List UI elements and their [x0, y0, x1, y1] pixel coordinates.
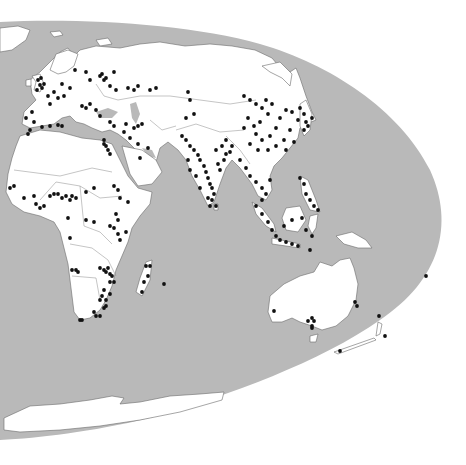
data-point [34, 202, 38, 206]
data-point [192, 112, 196, 116]
data-point [244, 166, 248, 170]
data-point [192, 148, 196, 152]
data-point [80, 318, 84, 322]
data-point [92, 220, 96, 224]
data-point [24, 116, 28, 120]
data-point [306, 124, 310, 128]
data-point [102, 142, 106, 146]
data-point [290, 242, 294, 246]
data-point [114, 212, 118, 216]
data-point [260, 186, 264, 190]
data-point [112, 280, 116, 284]
data-point [224, 152, 228, 156]
data-point [268, 134, 272, 138]
data-point [270, 228, 274, 232]
data-point [274, 234, 278, 238]
data-point [48, 124, 52, 128]
data-point [194, 174, 198, 178]
data-point [278, 116, 282, 120]
data-point [88, 78, 92, 82]
data-point [216, 162, 220, 166]
data-point [100, 72, 104, 76]
data-point [46, 94, 50, 98]
data-point [290, 110, 294, 114]
data-point [180, 134, 184, 138]
data-point [112, 184, 116, 188]
data-point [264, 98, 268, 102]
data-point [30, 110, 34, 114]
data-point [256, 148, 260, 152]
data-point [220, 144, 224, 148]
data-point [148, 88, 152, 92]
data-point [383, 334, 387, 338]
data-point [206, 196, 210, 200]
data-point [214, 148, 218, 152]
data-point [146, 274, 150, 278]
data-point [290, 218, 294, 222]
data-point [310, 234, 314, 238]
data-point [316, 208, 320, 212]
data-point [126, 86, 130, 90]
data-point [22, 196, 26, 200]
data-point [274, 144, 278, 148]
data-point [308, 198, 312, 202]
data-point [184, 138, 188, 142]
data-point [377, 314, 381, 318]
data-point [126, 200, 130, 204]
data-point [52, 192, 56, 196]
data-point [204, 170, 208, 174]
data-point [110, 274, 114, 278]
data-point [162, 282, 166, 286]
data-point [124, 230, 128, 234]
data-point [242, 94, 246, 98]
data-point [98, 266, 102, 270]
data-point [84, 106, 88, 110]
data-point [108, 280, 112, 284]
data-point [306, 319, 310, 323]
data-point [140, 290, 144, 294]
data-point [218, 168, 222, 172]
data-point [40, 125, 44, 129]
world-map [0, 0, 466, 465]
data-point [108, 152, 112, 156]
data-point [124, 122, 128, 126]
data-point [68, 86, 72, 90]
data-point [84, 218, 88, 222]
data-point [68, 198, 72, 202]
data-point [304, 192, 308, 196]
data-point [116, 232, 120, 236]
data-point [76, 270, 80, 274]
data-point [202, 164, 206, 168]
data-point [288, 128, 292, 132]
data-point [80, 104, 84, 108]
data-point [114, 88, 118, 92]
data-point [266, 148, 270, 152]
data-point [282, 138, 286, 142]
data-point [112, 70, 116, 74]
data-point [38, 206, 42, 210]
data-point [266, 220, 270, 224]
data-point [270, 102, 274, 106]
data-point [48, 194, 52, 198]
data-point [146, 146, 150, 150]
data-point [206, 176, 210, 180]
data-point [355, 304, 359, 308]
data-point [132, 88, 136, 92]
data-point [230, 144, 234, 148]
data-point [310, 324, 314, 328]
data-point [28, 128, 32, 132]
data-point [118, 196, 122, 200]
data-point [104, 76, 108, 80]
data-point [254, 102, 258, 106]
data-point [56, 123, 60, 127]
data-point [260, 212, 264, 216]
data-point [198, 186, 202, 190]
data-point [98, 298, 102, 302]
data-point [108, 84, 112, 88]
data-point [248, 98, 252, 102]
data-point [222, 158, 226, 162]
data-point [12, 184, 16, 188]
data-point [116, 188, 120, 192]
data-point [142, 280, 146, 284]
data-point [74, 196, 78, 200]
